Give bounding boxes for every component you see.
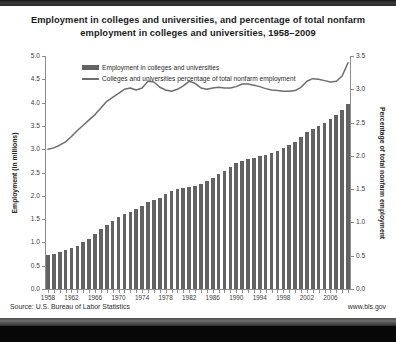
x-tick <box>54 290 55 293</box>
y-axis-title-left-wrap: Employment (in millions) <box>8 56 20 290</box>
left-tick-label: 0.0 <box>31 285 40 292</box>
x-tick <box>319 290 320 293</box>
right-tick <box>351 123 354 124</box>
x-tick <box>289 290 290 293</box>
right-tick-label: 1.5 <box>356 185 365 192</box>
x-tick <box>160 290 161 293</box>
right-tick-label: 2.5 <box>356 119 365 126</box>
x-tick <box>348 290 349 293</box>
x-tick <box>224 290 225 293</box>
x-tick <box>48 290 49 293</box>
x-tick <box>301 290 302 293</box>
x-tick <box>266 290 267 293</box>
x-tick <box>89 290 90 293</box>
left-tick-label: 4.0 <box>31 99 40 106</box>
x-tick <box>325 290 326 293</box>
right-tick <box>351 289 354 290</box>
x-tick <box>77 290 78 293</box>
left-tick-label: 2.0 <box>31 192 40 199</box>
x-tick <box>166 290 167 293</box>
chart-title-line-2: employment in colleges and universities,… <box>14 27 382 40</box>
left-tick-label: 3.0 <box>31 145 40 152</box>
x-tick <box>189 290 190 293</box>
x-tick <box>254 290 255 293</box>
source-note: Source: U.S. Bureau of Labor Statistics <box>10 303 130 310</box>
right-tick-label: 2.0 <box>356 152 365 159</box>
legend-line-swatch-icon <box>82 78 99 80</box>
x-tick <box>154 290 155 293</box>
line-series <box>45 56 351 290</box>
x-tick <box>219 290 220 293</box>
right-tick <box>351 156 354 157</box>
x-tick <box>113 290 114 293</box>
x-tick <box>83 290 84 293</box>
x-tick <box>60 290 61 293</box>
left-tick-label: 0.5 <box>31 262 40 269</box>
x-tick <box>148 290 149 293</box>
legend-item-line-label: Colleges and universities percentage of … <box>102 75 296 82</box>
plot-area: 0.00.51.01.52.02.53.03.54.04.55.0 0.00.5… <box>45 56 351 290</box>
page-background-strip <box>0 326 396 342</box>
left-tick-label: 2.5 <box>31 169 40 176</box>
right-tick <box>351 89 354 90</box>
x-tick <box>172 290 173 293</box>
x-tick <box>248 290 249 293</box>
right-tick-label: 3.0 <box>356 85 365 92</box>
x-tick <box>195 290 196 293</box>
x-tick <box>124 290 125 293</box>
x-tick <box>66 290 67 293</box>
right-tick-label: 0.0 <box>356 285 365 292</box>
x-tick <box>230 290 231 293</box>
x-tick <box>213 290 214 293</box>
x-tick <box>119 290 120 293</box>
y-axis-title-right-wrap: Percentage of total nonfarm employment <box>376 56 388 290</box>
chart-title-line-1: Employment in colleges and universities,… <box>14 14 382 27</box>
legend-item-bar-label: Employment in colleges and universities <box>102 64 219 71</box>
legend-bar-swatch-icon <box>82 65 99 70</box>
right-tick-label: 3.5 <box>356 52 365 59</box>
x-tick <box>295 290 296 293</box>
left-tick-label: 1.5 <box>31 215 40 222</box>
x-tick <box>260 290 261 293</box>
right-tick <box>351 222 354 223</box>
right-tick <box>351 56 354 57</box>
right-tick-label: 0.5 <box>356 252 365 259</box>
x-tick <box>277 290 278 293</box>
x-tick <box>177 290 178 293</box>
y-axis-title-left: Employment (in millions) <box>11 133 18 214</box>
x-tick <box>183 290 184 293</box>
screenshot-root: Employment in colleges and universities,… <box>0 0 396 342</box>
x-tick <box>201 290 202 293</box>
right-tick-label: 1.0 <box>356 218 365 225</box>
x-tick <box>107 290 108 293</box>
left-tick-label: 3.5 <box>31 122 40 129</box>
right-tick <box>351 189 354 190</box>
x-tick <box>236 290 237 293</box>
bottom-decoration-band <box>0 318 396 326</box>
page-title: Employment in colleges and universities,… <box>14 14 382 39</box>
x-tick <box>101 290 102 293</box>
x-tick <box>95 290 96 293</box>
x-tick <box>283 290 284 293</box>
x-tick <box>130 290 131 293</box>
chart-card: Employment in colleges and universities,… <box>0 6 396 318</box>
legend-item-line: Colleges and universities percentage of … <box>82 73 296 84</box>
left-tick-label: 5.0 <box>31 52 40 59</box>
x-tick <box>207 290 208 293</box>
x-tick <box>313 290 314 293</box>
x-tick <box>330 290 331 293</box>
x-tick <box>342 290 343 293</box>
legend-item-bar: Employment in colleges and universities <box>82 62 296 73</box>
chart-footer: Source: U.S. Bureau of Labor Statistics … <box>0 300 396 318</box>
x-tick <box>307 290 308 293</box>
x-tick <box>272 290 273 293</box>
legend: Employment in colleges and universities … <box>82 62 296 84</box>
x-tick <box>242 290 243 293</box>
left-tick-label: 1.0 <box>31 238 40 245</box>
x-tick <box>136 290 137 293</box>
x-tick <box>336 290 337 293</box>
y-axis-title-right: Percentage of total nonfarm employment <box>379 107 386 239</box>
bls-url[interactable]: www.bls.gov <box>348 303 386 310</box>
left-tick-label: 4.5 <box>31 75 40 82</box>
x-tick <box>71 290 72 293</box>
